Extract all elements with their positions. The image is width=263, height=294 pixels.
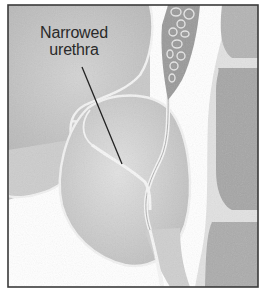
anatomy-illustration: Narrowed urethra [0, 0, 263, 294]
rectum-segment-middle [216, 68, 258, 210]
rectum-segment-bottom [205, 222, 258, 287]
label-line-2: urethra [24, 41, 124, 58]
narrowed-urethra-label: Narrowed urethra [24, 24, 124, 58]
label-line-1: Narrowed [24, 24, 124, 41]
rectum-segment-top [221, 5, 258, 58]
